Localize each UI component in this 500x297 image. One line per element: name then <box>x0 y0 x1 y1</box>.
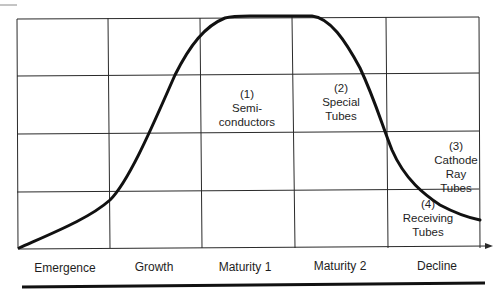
annotation-1-number: (1) <box>240 88 254 100</box>
bottom-rule <box>22 283 485 287</box>
annotation-special-tubes: (2) Special Tubes <box>322 82 360 122</box>
annotation-receiving-tubes: (4) Receiving Tubes <box>403 198 454 238</box>
annotation-cathode-ray-tubes: (3) Cathode Ray Tubes <box>434 140 477 194</box>
grid-row-divider-2 <box>17 131 479 134</box>
annotation-2-number: (2) <box>334 82 348 94</box>
x-axis <box>18 243 493 249</box>
annotation-4-line-2: Tubes <box>412 226 444 238</box>
annotation-3-line-1: Cathode <box>434 154 477 166</box>
annotation-4-number: (4) <box>421 198 435 210</box>
x-axis-labels: Emergence Growth Maturity 1 Maturity 2 D… <box>34 259 457 275</box>
annotation-3-line-2: Ray <box>446 168 467 180</box>
x-label-maturity-2: Maturity 2 <box>314 259 367 273</box>
x-axis-arrow-icon <box>485 243 493 249</box>
annotation-semiconductors: (1) Semi- conductors <box>219 88 276 128</box>
annotation-2-line-2: Tubes <box>325 110 357 122</box>
annotation-4-line-1: Receiving <box>403 212 454 224</box>
annotation-3-line-3: Tubes <box>440 182 472 194</box>
x-label-decline: Decline <box>417 259 457 273</box>
grid-right-border <box>479 17 480 248</box>
x-axis-line <box>18 246 488 249</box>
annotation-3-number: (3) <box>449 140 463 152</box>
x-label-emergence: Emergence <box>34 261 96 275</box>
product-life-cycle-chart: (1) Semi- conductors (2) Special Tubes (… <box>0 0 500 297</box>
x-label-maturity-1: Maturity 1 <box>219 260 272 274</box>
chart-svg: (1) Semi- conductors (2) Special Tubes (… <box>0 0 500 297</box>
annotation-1-line-2: conductors <box>219 116 276 128</box>
annotation-2-line-1: Special <box>322 96 360 108</box>
annotation-1-line-1: Semi- <box>232 102 262 114</box>
x-label-growth: Growth <box>135 260 174 274</box>
grid-row-divider-1 <box>17 73 479 76</box>
grid-row-divider-3 <box>17 189 479 192</box>
